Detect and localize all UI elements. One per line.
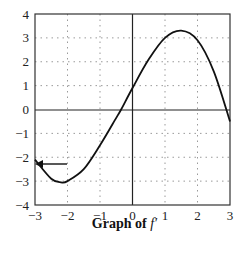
svg-text:−4: −4: [15, 198, 29, 213]
svg-text:1: 1: [23, 78, 30, 93]
caption-function: f′: [150, 216, 157, 231]
svg-text:−2: −2: [15, 150, 29, 165]
svg-text:0: 0: [23, 102, 30, 117]
caption-text: Graph of: [92, 216, 150, 231]
chart-caption: Graph of f′: [0, 216, 249, 232]
svg-text:2: 2: [23, 54, 30, 69]
svg-text:−3: −3: [15, 174, 29, 189]
svg-text:4: 4: [23, 7, 30, 22]
svg-text:3: 3: [23, 30, 30, 45]
svg-text:−1: −1: [15, 126, 29, 141]
y-tick-labels: 43210−1−2−3−4: [15, 7, 29, 213]
